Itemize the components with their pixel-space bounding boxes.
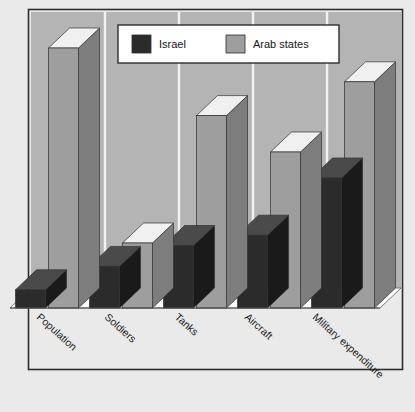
chart-stage: PopulationSoldiersTanksAircraftMilitary …: [0, 0, 415, 412]
legend-swatch-2[interactable]: [226, 35, 245, 53]
legend-label-1[interactable]: Israel: [159, 38, 186, 50]
bar-arab-states-military-expenditure-side: [375, 62, 396, 308]
legend-label-2[interactable]: Arab states: [253, 38, 309, 50]
chart-legend[interactable]: IsraelArab states: [118, 25, 339, 63]
bar-arab-states-tanks-side: [227, 96, 248, 308]
legend-swatch-1[interactable]: [132, 35, 151, 53]
bar-chart-3d: PopulationSoldiersTanksAircraftMilitary …: [0, 0, 415, 412]
bar-israel-population-front: [16, 290, 46, 308]
bar-arab-states-population-side: [79, 28, 100, 308]
bar-arab-states-aircraft-side: [301, 132, 322, 308]
bar-arab-states-population: [49, 28, 100, 308]
bar-arab-states-population-front: [49, 48, 79, 308]
bar-israel-military-expenditure-side: [342, 158, 363, 308]
